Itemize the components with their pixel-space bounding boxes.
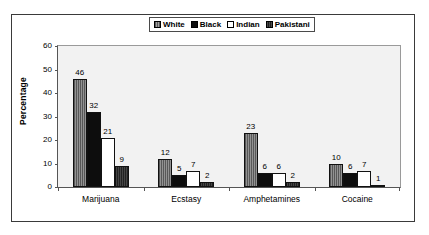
bar-column[interactable]: 2: [200, 46, 214, 187]
legend-label-white: White: [163, 20, 185, 29]
bar[interactable]: [329, 164, 343, 188]
bar-column[interactable]: 9: [115, 46, 129, 187]
x-axis-tick-label: Cocaine: [342, 195, 373, 204]
bar-column[interactable]: 12: [158, 46, 172, 187]
bar[interactable]: [343, 173, 357, 187]
bar-group: 10671: [315, 46, 401, 187]
bar[interactable]: [371, 185, 385, 187]
bar-column[interactable]: 6: [272, 46, 286, 187]
legend-entry-indian[interactable]: Indian: [227, 20, 260, 29]
x-axis-tick-label: Ecstasy: [171, 195, 201, 204]
bar-value-label: 21: [103, 128, 112, 136]
plot-area: 0102030405060 4632219125722366210671 Mar…: [57, 45, 401, 188]
bar-column[interactable]: 6: [343, 46, 357, 187]
legend-label-indian: Indian: [236, 20, 260, 29]
bar[interactable]: [101, 138, 115, 187]
bar-group-bars: 4632219: [58, 46, 144, 187]
legend-swatch-icon-pakistani: [266, 21, 273, 28]
bar-value-label: 6: [277, 163, 281, 171]
legend-entry-black[interactable]: Black: [191, 20, 221, 29]
bar-column[interactable]: 46: [73, 46, 87, 187]
bar-value-label: 1: [376, 175, 380, 183]
bar-column[interactable]: 7: [186, 46, 200, 187]
legend-swatch-icon-black: [191, 21, 198, 28]
legend-swatch-icon-indian: [227, 21, 234, 28]
bar-value-label: 7: [362, 161, 366, 169]
x-axis-tick-label: Marijuana: [82, 195, 119, 204]
bar-group-bars: 12572: [144, 46, 230, 187]
bar-group: 12572: [144, 46, 230, 187]
bar-column[interactable]: 7: [357, 46, 371, 187]
bar-value-label: 2: [205, 172, 209, 180]
legend-label-pakistani: Pakistani: [275, 20, 310, 29]
bar[interactable]: [158, 159, 172, 187]
bar-group-bars: 10671: [315, 46, 401, 187]
x-axis-tick-mark: [315, 187, 316, 191]
plot-inner: 0102030405060 4632219125722366210671 Mar…: [58, 46, 400, 187]
x-axis-tick-mark: [144, 187, 145, 191]
bar-column[interactable]: 5: [172, 46, 186, 187]
legend-entry-pakistani[interactable]: Pakistani: [266, 20, 310, 29]
x-axis-tick-mark: [58, 187, 59, 191]
legend-label-black: Black: [200, 20, 221, 29]
bar-value-label: 7: [191, 161, 195, 169]
bar-value-label: 2: [291, 172, 295, 180]
x-axis-tick-mark: [399, 187, 400, 191]
chart-legend: White Black Indian Pakistani: [149, 17, 315, 32]
bar[interactable]: [258, 173, 272, 187]
bar-value-label: 23: [246, 123, 255, 131]
bar-group: 4632219: [58, 46, 144, 187]
bar-value-label: 10: [332, 154, 341, 162]
bar[interactable]: [172, 175, 186, 187]
x-axis-tick-label: Amphetamines: [243, 195, 300, 204]
bar[interactable]: [87, 112, 101, 187]
bar-value-label: 12: [161, 149, 170, 157]
bar-column[interactable]: 23: [244, 46, 258, 187]
y-axis-title: Percentage: [18, 56, 28, 146]
bar[interactable]: [186, 171, 200, 187]
bar[interactable]: [286, 182, 300, 187]
bar-group-bars: 23662: [229, 46, 315, 187]
bar-group: 23662: [229, 46, 315, 187]
chart-figure: White Black Indian Pakistani Percentage …: [0, 0, 429, 235]
legend-entry-white[interactable]: White: [154, 20, 185, 29]
bar-column[interactable]: 32: [87, 46, 101, 187]
bar-value-label: 6: [348, 163, 352, 171]
bar-value-label: 32: [89, 102, 98, 110]
bar-value-label: 46: [75, 69, 84, 77]
bar[interactable]: [200, 182, 214, 187]
x-axis-tick-mark: [229, 187, 230, 191]
bar-column[interactable]: 1: [371, 46, 385, 187]
legend-swatch-icon-white: [154, 21, 161, 28]
bar-column[interactable]: 2: [286, 46, 300, 187]
bar-value-label: 9: [120, 156, 124, 164]
bar-column[interactable]: 10: [329, 46, 343, 187]
bar-value-label: 6: [263, 163, 267, 171]
bar[interactable]: [357, 171, 371, 187]
bar-column[interactable]: 21: [101, 46, 115, 187]
bar[interactable]: [244, 133, 258, 187]
bar[interactable]: [73, 79, 87, 187]
bar-value-label: 5: [177, 165, 181, 173]
bar[interactable]: [272, 173, 286, 187]
bar-column[interactable]: 6: [258, 46, 272, 187]
bar[interactable]: [115, 166, 129, 187]
